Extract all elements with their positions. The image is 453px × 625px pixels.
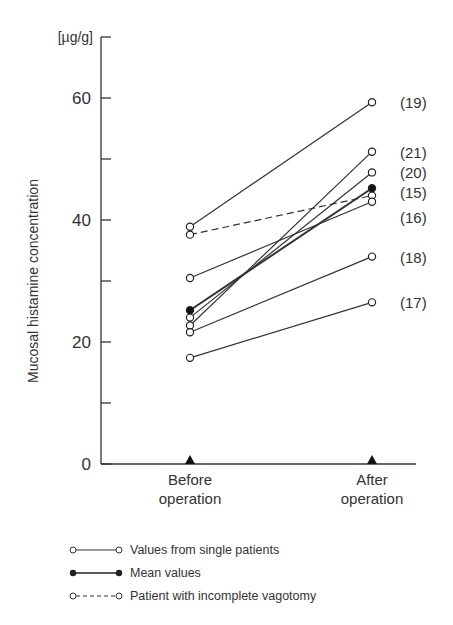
open-point [186, 223, 193, 230]
filled-circle-line-icon [68, 568, 124, 578]
y-tick-label: 0 [82, 455, 91, 474]
y-unit-label: [µg/g] [58, 29, 93, 45]
series-line [190, 152, 372, 326]
legend: Values from single patients Mean values … [68, 538, 316, 607]
open-circle-line-icon [68, 545, 124, 555]
triangle-marker-icon [367, 455, 377, 464]
legend-item-single: Values from single patients [68, 538, 316, 561]
y-tick-label: 60 [72, 89, 91, 108]
patient-label: (19) [400, 94, 427, 111]
series-line [190, 102, 372, 226]
y-tick-label: 20 [72, 333, 91, 352]
histamine-chart: 0204060[µg/g]Mucosal histamine concentra… [0, 0, 453, 530]
patient-label: (21) [400, 144, 427, 161]
open-point [368, 253, 375, 260]
triangle-marker-icon [185, 455, 195, 464]
open-point [368, 299, 375, 306]
filled-point [368, 185, 375, 192]
open-point [368, 198, 375, 205]
legend-item-incomplete: Patient with incomplete vagotomy [68, 584, 316, 607]
patient-label: (16) [400, 209, 427, 226]
legend-label: Patient with incomplete vagotomy [130, 589, 316, 603]
open-point [368, 169, 375, 176]
open-point [368, 99, 375, 106]
open-point [186, 274, 193, 281]
y-axis-title: Mucosal histamine concentration [25, 179, 41, 383]
y-tick-label: 40 [72, 211, 91, 230]
open-point [186, 354, 193, 361]
x-category-label: operation [159, 490, 222, 507]
series-line [190, 257, 372, 333]
x-category-label: After [356, 471, 388, 488]
series-line [190, 196, 372, 235]
open-point [186, 231, 193, 238]
patient-label: (15) [400, 184, 427, 201]
patient-label: (18) [400, 249, 427, 266]
open-circle-dashed-line-icon [68, 591, 124, 601]
open-point [368, 148, 375, 155]
legend-label: Mean values [130, 566, 201, 580]
legend-label: Values from single patients [130, 543, 279, 557]
open-point [186, 314, 193, 321]
x-category-label: operation [341, 490, 404, 507]
series-line [190, 302, 372, 358]
patient-label: (17) [400, 294, 427, 311]
series-line [190, 202, 372, 278]
open-point [186, 329, 193, 336]
x-category-label: Before [168, 471, 212, 488]
patient-label: (20) [400, 164, 427, 181]
legend-item-mean: Mean values [68, 561, 316, 584]
filled-point [186, 307, 193, 314]
series-line [190, 172, 372, 317]
series-line [190, 188, 372, 310]
